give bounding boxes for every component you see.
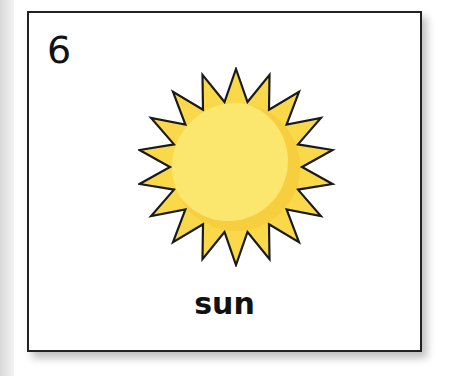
card-word: sun: [29, 289, 420, 319]
card-number: 6: [47, 31, 71, 69]
adjacent-card-edge: [0, 0, 14, 376]
flashcard: 6 sun: [27, 11, 422, 352]
sun-icon: [138, 67, 338, 267]
